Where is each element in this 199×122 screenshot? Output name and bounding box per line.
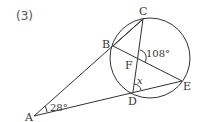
label-A: A [24,111,34,122]
label-B: B [102,38,110,51]
segment-BC [113,19,143,46]
label-D: D [128,95,137,108]
label-F: F [125,59,133,72]
angle-label-x: x [137,75,143,86]
geometry-diagram: (3) A B C D E F 28° 108° x [0,0,199,122]
angle-label-108: 108° [146,48,170,59]
label-E: E [183,80,191,93]
angle-arc-A [45,106,47,112]
label-C: C [139,5,147,18]
problem-number: (3) [16,9,33,23]
angle-label-A: 28° [50,102,68,113]
